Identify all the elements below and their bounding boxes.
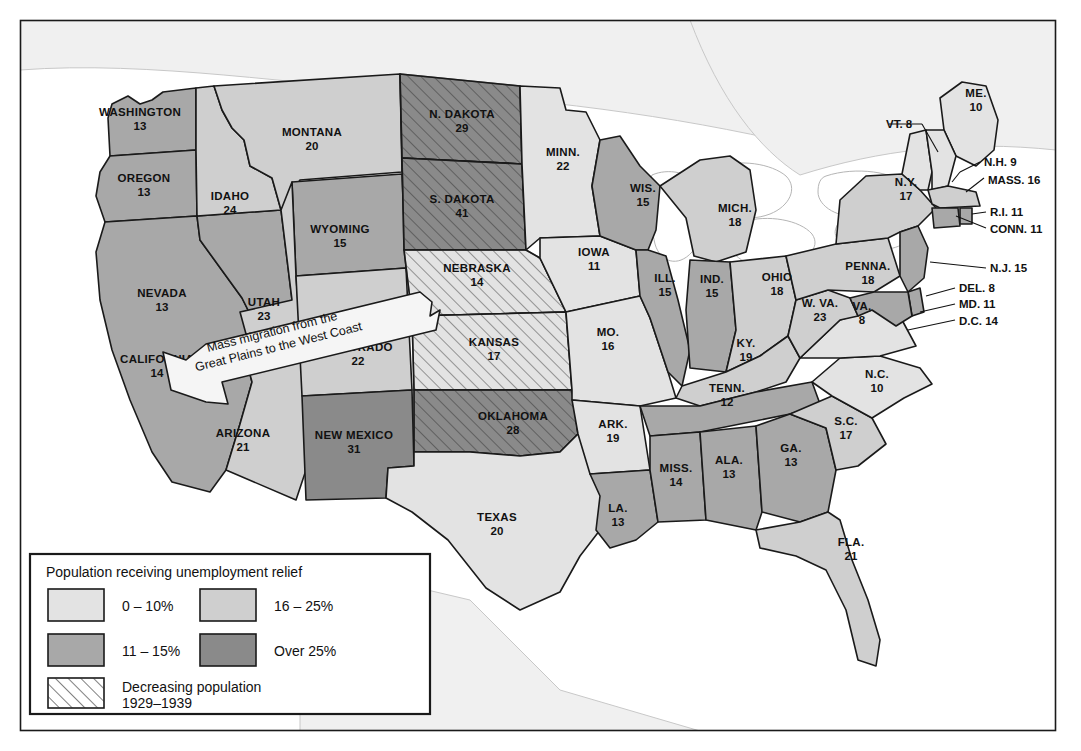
- svg-text:19: 19: [607, 432, 620, 444]
- callout-mass: MASS. 16: [988, 174, 1040, 186]
- map-body: WASHINGTON13 OREGON13 CALIFORNIA14 NEVAD…: [20, 20, 1056, 731]
- svg-text:ARK.: ARK.: [598, 418, 627, 430]
- svg-text:18: 18: [862, 274, 875, 286]
- svg-text:IDAHO: IDAHO: [211, 190, 250, 202]
- legend-label-hatch-2: 1929–1939: [122, 695, 192, 711]
- svg-text:PENNA.: PENNA.: [845, 260, 890, 272]
- state-oklahoma[interactable]: [414, 390, 578, 456]
- map-canvas: WASHINGTON13 OREGON13 CALIFORNIA14 NEVAD…: [0, 0, 1081, 751]
- svg-text:TENN.: TENN.: [709, 382, 745, 394]
- legend-title: Population receiving unemployment relief: [46, 564, 302, 580]
- svg-text:13: 13: [156, 301, 169, 313]
- svg-text:TEXAS: TEXAS: [477, 511, 517, 523]
- svg-text:IOWA: IOWA: [578, 246, 610, 258]
- svg-text:N.C.: N.C.: [865, 368, 889, 380]
- svg-text:15: 15: [637, 196, 650, 208]
- svg-text:13: 13: [134, 120, 147, 132]
- callout-conn: CONN. 11: [990, 223, 1043, 235]
- svg-text:NEBRASKA: NEBRASKA: [443, 262, 511, 274]
- callout-ri: R.I. 11: [990, 206, 1024, 218]
- svg-text:13: 13: [612, 516, 625, 528]
- svg-text:MINN.: MINN.: [546, 146, 580, 158]
- svg-text:OREGON: OREGON: [118, 172, 171, 184]
- svg-text:21: 21: [845, 550, 858, 562]
- svg-text:ALA.: ALA.: [715, 454, 743, 466]
- state-georgia[interactable]: [756, 414, 836, 522]
- svg-text:14: 14: [151, 367, 164, 379]
- legend-label-over-25: Over 25%: [274, 643, 336, 659]
- legend-swatch-hatch-fill: [48, 678, 104, 708]
- svg-text:23: 23: [814, 311, 827, 323]
- svg-text:41: 41: [456, 207, 469, 219]
- svg-text:23: 23: [258, 310, 271, 322]
- svg-text:FLA.: FLA.: [838, 536, 865, 548]
- svg-text:20: 20: [491, 525, 504, 537]
- legend-swatch-11-15: [48, 634, 104, 666]
- legend-label-16-25: 16 – 25%: [274, 598, 333, 614]
- svg-text:15: 15: [659, 286, 672, 298]
- svg-text:20: 20: [306, 140, 319, 152]
- legend: Population receiving unemployment relief…: [30, 554, 430, 714]
- svg-text:17: 17: [488, 350, 501, 362]
- legend-swatch-0-10: [48, 589, 104, 621]
- svg-text:16: 16: [602, 340, 615, 352]
- svg-text:MICH.: MICH.: [718, 202, 752, 214]
- svg-text:KY.: KY.: [737, 337, 756, 349]
- callout-vt: VT. 8: [886, 118, 913, 130]
- svg-text:10: 10: [871, 382, 884, 394]
- svg-text:MONTANA: MONTANA: [282, 126, 342, 138]
- legend-label-hatch-1: Decreasing population: [122, 679, 261, 695]
- svg-text:IND.: IND.: [700, 273, 724, 285]
- svg-text:13: 13: [723, 468, 736, 480]
- svg-text:GA.: GA.: [780, 442, 801, 454]
- legend-label-11-15: 11 – 15%: [122, 643, 180, 659]
- svg-text:15: 15: [334, 237, 347, 249]
- svg-text:24: 24: [224, 204, 237, 216]
- svg-text:22: 22: [352, 355, 365, 367]
- svg-text:28: 28: [507, 424, 520, 436]
- svg-text:21: 21: [237, 441, 250, 453]
- svg-text:OKLAHOMA: OKLAHOMA: [478, 410, 548, 422]
- legend-swatch-16-25: [200, 589, 256, 621]
- svg-text:OHIO: OHIO: [762, 271, 793, 283]
- legend-swatch-over-25: [200, 634, 256, 666]
- svg-text:13: 13: [785, 456, 798, 468]
- svg-text:11: 11: [588, 260, 601, 272]
- svg-text:17: 17: [840, 429, 853, 441]
- svg-text:13: 13: [138, 186, 151, 198]
- svg-text:8: 8: [859, 314, 866, 326]
- callout-nh: N.H. 9: [984, 156, 1017, 168]
- svg-text:22: 22: [557, 160, 570, 172]
- svg-text:31: 31: [348, 443, 361, 455]
- svg-text:18: 18: [771, 285, 784, 297]
- svg-text:ARIZONA: ARIZONA: [216, 427, 271, 439]
- svg-text:KANSAS: KANSAS: [469, 336, 519, 348]
- svg-text:VA.: VA.: [852, 300, 871, 312]
- svg-text:NEW MEXICO: NEW MEXICO: [315, 429, 393, 441]
- svg-text:ME.: ME.: [965, 87, 986, 99]
- state-connecticut[interactable]: [932, 208, 960, 228]
- callout-nj: N.J. 15: [990, 262, 1028, 274]
- svg-text:15: 15: [706, 287, 719, 299]
- svg-text:MISS.: MISS.: [660, 462, 693, 474]
- callout-md: MD. 11: [959, 298, 996, 310]
- legend-label-0-10: 0 – 10%: [122, 598, 173, 614]
- svg-text:S.C.: S.C.: [834, 415, 858, 427]
- svg-text:17: 17: [900, 190, 913, 202]
- svg-text:MO.: MO.: [597, 326, 620, 338]
- svg-text:UTAH: UTAH: [248, 296, 280, 308]
- svg-text:LA.: LA.: [608, 502, 627, 514]
- svg-text:W. VA.: W. VA.: [802, 297, 839, 309]
- svg-text:10: 10: [970, 101, 983, 113]
- svg-text:ILL.: ILL.: [654, 272, 676, 284]
- unemployment-relief-map: WASHINGTON13 OREGON13 CALIFORNIA14 NEVAD…: [0, 0, 1081, 751]
- svg-text:29: 29: [456, 122, 469, 134]
- svg-text:14: 14: [471, 276, 484, 288]
- svg-text:WASHINGTON: WASHINGTON: [99, 106, 181, 118]
- svg-text:12: 12: [721, 396, 734, 408]
- svg-text:NEVADA: NEVADA: [137, 287, 187, 299]
- svg-text:18: 18: [729, 216, 742, 228]
- svg-text:S. DAKOTA: S. DAKOTA: [429, 193, 494, 205]
- svg-text:N. DAKOTA: N. DAKOTA: [429, 108, 495, 120]
- svg-text:N.Y.: N.Y.: [895, 176, 917, 188]
